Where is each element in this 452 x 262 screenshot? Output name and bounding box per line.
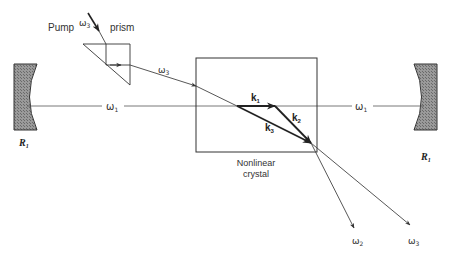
k3-vector <box>237 106 311 143</box>
right-mirror <box>414 64 437 130</box>
prism <box>83 44 130 85</box>
idler-output-beam <box>311 143 354 228</box>
pump-beam-in-crystal <box>196 86 237 106</box>
pump-output-beam <box>311 143 410 225</box>
crystal-label-line2: crystal <box>243 169 269 179</box>
cavity-freq-right: ω1 <box>355 101 367 113</box>
right-mirror-label: R1 <box>420 151 431 163</box>
left-mirror <box>14 64 37 130</box>
pump-label: Pump <box>48 22 75 33</box>
pump-incoming-tail <box>99 31 106 44</box>
pump-freq-label: ω3 <box>79 18 91 29</box>
crystal-label-line1: Nonlinear <box>237 158 276 168</box>
k2-label: k2 <box>292 112 302 124</box>
cavity-freq-left: ω1 <box>106 101 118 113</box>
left-mirror-label: R1 <box>18 137 29 149</box>
idler-output-label: ω2 <box>352 236 364 247</box>
prism-label: prism <box>110 22 134 33</box>
k1-label: k1 <box>251 92 261 104</box>
pump-beam-freq-label: ω3 <box>158 65 170 76</box>
opo-diagram: R1 R1 ω1 ω1 Pump ω3 prism ω3 Nonlinear c… <box>0 0 452 262</box>
pump-output-label: ω3 <box>408 236 420 247</box>
